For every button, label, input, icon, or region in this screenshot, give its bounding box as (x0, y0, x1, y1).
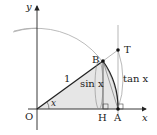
label-radius: 1 (64, 74, 70, 84)
unit-circle-diagram: y x O H A B T 1 sin x tan x x (0, 0, 157, 135)
diagram-canvas (0, 0, 157, 135)
label-A: A (114, 113, 121, 123)
label-sin: sin x (80, 79, 104, 89)
x-axis-label: x (142, 113, 148, 123)
label-T: T (124, 45, 131, 55)
label-O: O (25, 112, 33, 122)
label-tan: tan x (123, 74, 148, 84)
point-T (116, 48, 120, 52)
point-A (116, 107, 120, 111)
label-angle: x (51, 99, 56, 108)
shaded-sector (37, 61, 118, 109)
label-B: B (92, 55, 99, 65)
label-H: H (98, 113, 107, 123)
point-B (101, 59, 105, 63)
y-axis-label: y (26, 2, 32, 12)
ray-OT (103, 50, 118, 61)
